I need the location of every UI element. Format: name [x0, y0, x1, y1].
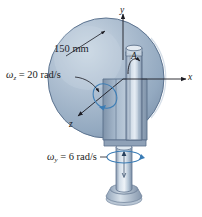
omega-z-value: 20 rad/s [27, 69, 61, 80]
mechanics-figure: ωz = 20 rad/s ωy = 6 rad/s 150 mm y x z … [0, 0, 202, 217]
omega-z-label: ωz = 20 rad/s [6, 70, 61, 82]
omega-y-equals: = [58, 151, 69, 162]
axis-y-label: y [120, 6, 124, 16]
point-a-label: A [131, 52, 137, 62]
omega-y-value: 6 rad/s [69, 151, 97, 162]
hub-block-bottom-face [104, 140, 146, 146]
collar-body [126, 52, 142, 140]
figure-graphics [0, 0, 202, 217]
omega-y-label: ωy = 6 rad/s [47, 152, 97, 164]
axis-x-label: x [188, 73, 192, 83]
omega-z-equals: = [16, 69, 27, 80]
top-collar-ring-top [126, 45, 142, 51]
axis-z-label: z [69, 120, 73, 130]
dimension-label-150mm: 150 mm [54, 44, 89, 55]
